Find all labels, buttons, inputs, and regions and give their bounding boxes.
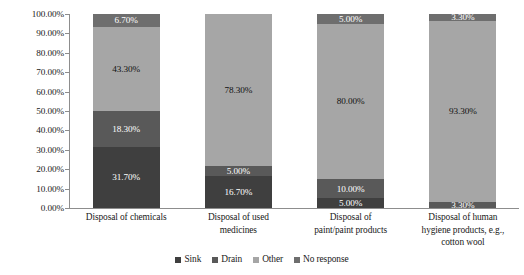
bar-segment-value-label: 5.00% bbox=[339, 198, 362, 208]
y-axis-tick-label: 0.00% bbox=[41, 203, 64, 213]
bar-segment-value-label: 78.30% bbox=[225, 85, 253, 95]
y-axis-tick-label: 80.00% bbox=[36, 48, 64, 58]
bar-segment[interactable]: 3.30% bbox=[429, 14, 496, 20]
legend-swatch-icon bbox=[212, 257, 218, 263]
legend-item[interactable]: Other bbox=[253, 254, 283, 265]
y-axis-tick-mark bbox=[65, 14, 69, 15]
legend-label: Other bbox=[262, 254, 283, 265]
bar-segment-value-label: 5.00% bbox=[227, 166, 250, 176]
bar-segment-value-label: 5.00% bbox=[339, 14, 362, 24]
y-axis-tick-mark bbox=[65, 130, 69, 131]
bar-stack: 31.70%18.30%43.30%6.70% bbox=[93, 14, 160, 208]
x-axis-category-line: paint/paint products bbox=[295, 224, 407, 237]
bar-segment-value-label: 3.30% bbox=[451, 14, 474, 20]
bar-segment[interactable]: 10.00% bbox=[317, 179, 384, 198]
y-axis-tick-mark bbox=[65, 33, 69, 34]
x-axis-category-label: Disposal of usedmedicines bbox=[182, 211, 294, 236]
x-axis-category-line: Disposal of human bbox=[407, 211, 519, 224]
bar-segment[interactable]: 6.70% bbox=[93, 14, 160, 27]
bar-group: 16.70%5.00%78.30% bbox=[205, 14, 272, 208]
y-axis-tick-mark bbox=[65, 111, 69, 112]
bar-segment[interactable]: 16.70% bbox=[205, 176, 272, 208]
bar-segment-value-label: 16.70% bbox=[225, 187, 253, 197]
y-axis-tick-mark bbox=[65, 169, 69, 170]
legend-swatch-icon bbox=[294, 257, 300, 263]
y-axis-tick-label: 10.00% bbox=[36, 184, 64, 194]
bar-segment-value-label: 93.30% bbox=[449, 106, 477, 116]
bar-segment[interactable]: 5.00% bbox=[205, 166, 272, 176]
bar-segment-value-label: 10.00% bbox=[337, 184, 365, 194]
bar-segment[interactable]: 3.30% bbox=[429, 202, 496, 208]
bar-segment[interactable]: 93.30% bbox=[429, 21, 496, 202]
bar-stack: 16.70%5.00%78.30% bbox=[205, 14, 272, 208]
legend-label: No response bbox=[303, 254, 349, 265]
bar-stack: 5.00%10.00%80.00%5.00% bbox=[317, 14, 384, 208]
x-axis-category-label: Disposal ofpaint/paint products bbox=[295, 211, 407, 236]
x-axis-category-line: hygiene products, e.g., bbox=[407, 224, 519, 237]
legend-label: Sink bbox=[184, 254, 201, 265]
x-axis-category-line: Disposal of bbox=[295, 211, 407, 224]
bar-group: 3.30%93.30%3.30% bbox=[429, 14, 496, 208]
y-axis-tick-label: 90.00% bbox=[36, 28, 64, 38]
chart-legend: SinkDrainOtherNo response bbox=[0, 254, 524, 265]
x-axis-line bbox=[69, 208, 519, 209]
bar-segment-value-label: 43.30% bbox=[112, 64, 140, 74]
bar-segment[interactable]: 5.00% bbox=[317, 14, 384, 24]
y-axis: 100.00%90.00%80.00%70.00%60.00%50.00%40.… bbox=[0, 0, 68, 215]
x-axis-category-label: Disposal of humanhygiene products, e.g.,… bbox=[407, 211, 519, 249]
legend-item[interactable]: Drain bbox=[212, 254, 242, 265]
y-axis-tick-label: 30.00% bbox=[36, 145, 64, 155]
legend-item[interactable]: Sink bbox=[175, 254, 201, 265]
y-axis-tick-label: 50.00% bbox=[36, 106, 64, 116]
y-axis-tick-mark bbox=[65, 92, 69, 93]
bar-segment-value-label: 80.00% bbox=[337, 96, 365, 106]
bar-segment-value-label: 31.70% bbox=[112, 172, 140, 182]
y-axis-tick-mark bbox=[65, 208, 69, 209]
legend-swatch-icon bbox=[253, 257, 259, 263]
x-axis-category-line: cotton wool bbox=[407, 236, 519, 249]
y-axis-tick-label: 100.00% bbox=[32, 9, 64, 19]
x-axis: Disposal of chemicalsDisposal of usedmed… bbox=[70, 211, 519, 257]
legend-item[interactable]: No response bbox=[294, 254, 349, 265]
x-axis-category-line: medicines bbox=[182, 224, 294, 237]
y-axis-tick-label: 70.00% bbox=[36, 67, 64, 77]
bar-segment[interactable]: 78.30% bbox=[205, 14, 272, 166]
legend-swatch-icon bbox=[175, 257, 181, 263]
x-axis-category-line: Disposal of used bbox=[182, 211, 294, 224]
bar-segment[interactable]: 31.70% bbox=[93, 147, 160, 208]
bar-stack: 3.30%93.30%3.30% bbox=[429, 14, 496, 208]
x-axis-category-label: Disposal of chemicals bbox=[70, 211, 182, 224]
plot-area: 31.70%18.30%43.30%6.70%16.70%5.00%78.30%… bbox=[70, 14, 519, 208]
y-axis-tick-mark bbox=[65, 150, 69, 151]
y-axis-tick-mark bbox=[65, 53, 69, 54]
bar-group: 31.70%18.30%43.30%6.70% bbox=[93, 14, 160, 208]
bar-segment-value-label: 18.30% bbox=[112, 124, 140, 134]
stacked-bar-chart: 100.00%90.00%80.00%70.00%60.00%50.00%40.… bbox=[0, 0, 524, 275]
legend-label: Drain bbox=[221, 254, 242, 265]
y-axis-tick-label: 60.00% bbox=[36, 87, 64, 97]
bar-segment-value-label: 6.70% bbox=[115, 15, 138, 25]
bar-group: 5.00%10.00%80.00%5.00% bbox=[317, 14, 384, 208]
bar-segment[interactable]: 5.00% bbox=[317, 198, 384, 208]
y-axis-tick-mark bbox=[65, 189, 69, 190]
bar-segment[interactable]: 18.30% bbox=[93, 111, 160, 147]
y-axis-tick-label: 40.00% bbox=[36, 125, 64, 135]
bar-segment[interactable]: 43.30% bbox=[93, 27, 160, 111]
y-axis-tick-mark bbox=[65, 72, 69, 73]
y-axis-tick-label: 20.00% bbox=[36, 164, 64, 174]
bar-segment[interactable]: 80.00% bbox=[317, 24, 384, 179]
x-axis-category-line: Disposal of chemicals bbox=[70, 211, 182, 224]
bar-segment-value-label: 3.30% bbox=[451, 202, 474, 208]
